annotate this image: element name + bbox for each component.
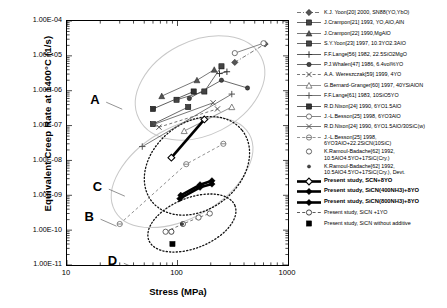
legend-item[interactable]: Present study, SiCN(800NH3)+8YO — [296, 198, 447, 207]
legend-item-label: P.J.Whalen[47] 1986, 6.4vol%YO — [322, 60, 403, 67]
legend-item-label: A.A. Wereszczak[59] 1999, 4YO — [322, 70, 401, 77]
legend-marker-icon — [296, 219, 322, 228]
data-series — [168, 116, 208, 161]
legend-item[interactable]: J.Crampon[22] 1990,MgAlO — [296, 29, 447, 38]
legend-marker-icon — [296, 91, 322, 100]
region-label-A: A — [90, 92, 99, 107]
legend-item[interactable]: Present study, SCN+8YO — [296, 177, 447, 186]
legend-marker-icon — [296, 187, 322, 196]
legend-item[interactable]: J.-L.Besson[25] 1998, 6YO3AlO — [296, 112, 447, 121]
legend-item-label: Present study, SiCN(800NH3)+8YO — [322, 198, 419, 204]
region-ellipse-A — [118, 21, 283, 161]
legend-marker-icon — [296, 50, 322, 59]
x-axis-title: Stress (MPa) — [66, 286, 290, 297]
legend-item[interactable]: Present study, SiCN +1YO — [296, 208, 447, 217]
legend-item[interactable]: K.J. Yoon[20] 2000, SN88(YO,YbO) — [296, 8, 447, 17]
data-series — [180, 222, 183, 225]
legend-marker-icon — [296, 81, 322, 90]
legend-item[interactable]: G.Bernard-Granger[60] 1997, 40YSiAlON — [296, 81, 447, 90]
legend-marker-icon — [296, 60, 322, 69]
legend-item[interactable]: K.Ramoul-Badache[62] 1992, 10.5AlO4.5YO+… — [296, 147, 447, 160]
data-series — [169, 229, 174, 234]
legend-item-label: Present study, SiCN +1YO — [322, 208, 388, 215]
legend-marker-icon — [296, 198, 322, 207]
legend-item[interactable]: S.Y.Yoon[23] 1997, 10.3YO2.3AlO — [296, 39, 447, 48]
chart-figure: Equivalent Creep Rate at 1400°C (1/s) 1.… — [0, 0, 447, 308]
legend-marker-icon — [296, 29, 322, 38]
legend-item[interactable]: R.D.Nixon[24] 1990, 6YO1.5AlO/30SiC(w) — [296, 122, 447, 131]
legend-item-label: F.F.Lange[61] 1983, 10SiO5YO — [322, 91, 399, 98]
region-label-C: C — [93, 179, 102, 194]
legend-item[interactable]: Present study, SiCN(400NH3)+8YO — [296, 187, 447, 196]
legend-item-label: S.Y.Yoon[23] 1997, 10.3YO2.3AlO — [322, 39, 406, 46]
legend-marker-icon — [296, 208, 322, 217]
legend-marker-icon — [296, 112, 322, 121]
legend-item[interactable]: K.Ramoul-Badache[62] 1992, 10.5AlO4.5YO+… — [296, 162, 447, 175]
legend-item-label: J.Crampon[21] 1993, YO,AlO,AlN — [322, 18, 404, 25]
legend-item[interactable]: A.A. Wereszczak[59] 1999, 4YO — [296, 70, 447, 79]
legend-item-label: Present study, SiCN without additive — [322, 219, 411, 226]
plot-canvas — [67, 21, 288, 265]
legend-item-label: J.-L.Besson[25] 1998, 6YO3AlO+22.2SiCN(1… — [322, 133, 391, 146]
legend-marker-icon — [296, 39, 322, 48]
data-series — [177, 181, 216, 202]
legend-marker-icon — [296, 133, 322, 142]
plot-area — [66, 20, 289, 266]
legend-marker-icon — [296, 122, 322, 131]
legend-item[interactable]: R.D.Nixon[24] 1990, 6YO1.5AlO — [296, 102, 447, 111]
legend-item-label: K.Ramoul-Badache[62] 1992, 10.5AlO4.5YO+… — [322, 162, 405, 175]
legend-item-label: K.Ramoul-Badache[62] 1992, 10.5AlO4.5YO+… — [322, 147, 395, 160]
legend-item-label: Present study, SCN+8YO — [322, 177, 392, 183]
legend-item-label: G.Bernard-Granger[60] 1997, 40YSiAlON — [322, 81, 423, 88]
legend-marker-icon — [296, 147, 322, 156]
legend-item-label: R.D.Nixon[24] 1990, 6YO1.5AlO/30SiC(w) — [322, 122, 425, 129]
legend-marker-icon — [296, 18, 322, 27]
x-tick-label: 100 — [170, 269, 183, 277]
legend-item-label: J.-L.Besson[25] 1998, 6YO3AlO — [322, 112, 401, 119]
legend-item-label: K.J. Yoon[20] 2000, SN88(YO,YbO) — [322, 8, 409, 15]
legend-item[interactable]: J.-L.Besson[25] 1998, 6YO3AlO+22.2SiCN(1… — [296, 133, 447, 146]
data-series — [170, 241, 175, 246]
legend-marker-icon — [296, 177, 322, 186]
legend-item[interactable]: P.J.Whalen[47] 1986, 6.4vol%YO — [296, 60, 447, 69]
legend-marker-icon — [296, 162, 322, 171]
legend-item[interactable]: Present study, SiCN without additive — [296, 219, 447, 228]
legend-marker-icon — [296, 8, 322, 17]
legend-item-label: F.F.Lange[56] 1982, 22.5SiO2MgO — [322, 50, 407, 57]
legend-item[interactable]: F.F.Lange[56] 1982, 22.5SiO2MgO — [296, 50, 447, 59]
legend-item[interactable]: J.Crampon[21] 1993, YO,AlO,AlN — [296, 18, 447, 27]
legend-marker-icon — [296, 70, 322, 79]
x-tick-label: 10 — [62, 269, 70, 277]
x-tick-label: 1000 — [279, 269, 296, 277]
legend-item-label: R.D.Nixon[24] 1990, 6YO1.5AlO — [322, 102, 401, 109]
legend-item-label: Present study, SiCN(400NH3)+8YO — [322, 187, 419, 193]
legend: K.J. Yoon[20] 2000, SN88(YO,YbO)J.Crampo… — [296, 8, 447, 229]
legend-item-label: J.Crampon[22] 1990,MgAlO — [322, 29, 391, 36]
legend-item[interactable]: F.F.Lange[61] 1983, 10SiO5YO — [296, 91, 447, 100]
region-ellipse-C — [125, 96, 269, 235]
data-series — [216, 69, 230, 77]
region-label-D: D — [108, 253, 117, 268]
region-label-B: B — [85, 209, 94, 224]
legend-marker-icon — [296, 102, 322, 111]
